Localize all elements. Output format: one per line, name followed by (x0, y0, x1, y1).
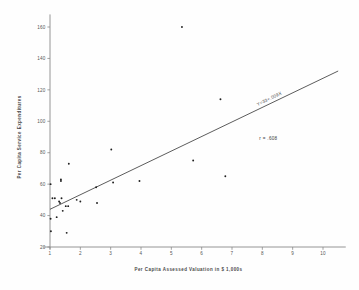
y-tick-label: 160 (37, 25, 46, 30)
data-point (54, 197, 56, 199)
data-point (181, 26, 183, 28)
data-point (96, 202, 98, 204)
x-tick-label: 7 (231, 251, 234, 256)
x-axis-title: Per Capita Assessed Valuation in $ 1,000… (134, 267, 242, 272)
y-axis: 20406080100120140160 (37, 14, 50, 249)
x-tick-label: 4 (140, 251, 143, 256)
y-tick-label: 140 (37, 56, 46, 61)
data-point (79, 200, 81, 202)
x-tick-label: 6 (200, 251, 203, 256)
x-tick-label: 2 (79, 251, 82, 256)
data-point (68, 163, 70, 165)
data-point (50, 183, 52, 185)
x-axis: 12345678910 (43, 247, 345, 256)
data-point (62, 210, 64, 212)
x-tick-label: 1 (49, 251, 52, 256)
data-point (60, 178, 62, 180)
x-tick-label: 9 (291, 251, 294, 256)
x-tick-label: 8 (261, 251, 264, 256)
data-point (66, 232, 68, 234)
data-point (51, 197, 53, 199)
y-tick-label: 40 (40, 213, 46, 218)
chart-annotations: r = .608 (259, 136, 277, 141)
data-point (50, 218, 52, 220)
data-point (110, 149, 112, 151)
x-tick-label: 10 (320, 251, 326, 256)
regression-line-path (50, 71, 338, 209)
annotation-correlation: r = .608 (259, 136, 277, 141)
data-point (59, 202, 61, 204)
data-point (56, 216, 58, 218)
y-tick-label: 80 (40, 150, 46, 155)
x-tick-label: 3 (109, 251, 112, 256)
x-tick-label: 5 (170, 251, 173, 256)
y-tick-label: 60 (40, 182, 46, 187)
data-point (61, 197, 63, 199)
y-axis-title: Per Capita Service Expenditures (17, 95, 22, 178)
regression-line: Y=33+.009X (50, 71, 338, 209)
data-point (50, 230, 52, 232)
data-point (112, 182, 114, 184)
plot-canvas: 20406080100120140160 12345678910 Y=33+.0… (0, 0, 359, 290)
data-point (67, 205, 69, 207)
y-tick-label: 100 (37, 119, 46, 124)
scatter-plot-figure: 20406080100120140160 12345678910 Y=33+.0… (0, 0, 359, 290)
data-point (224, 175, 226, 177)
data-point (139, 180, 141, 182)
data-point (76, 199, 78, 201)
data-point (65, 205, 67, 207)
data-point (220, 98, 222, 100)
data-point (95, 186, 97, 188)
data-points (50, 26, 227, 234)
data-point (192, 160, 194, 162)
y-tick-label: 120 (37, 88, 46, 93)
